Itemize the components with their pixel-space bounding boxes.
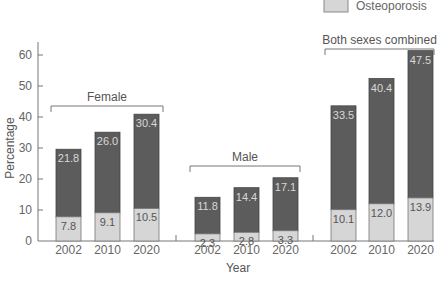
group-label: Both sexes combined	[322, 33, 437, 47]
x-tick-label: 2010	[233, 243, 260, 257]
bar-segment-dark	[369, 79, 394, 204]
x-tick-label: 2020	[272, 243, 299, 257]
bar-value-dark: 40.4	[371, 82, 392, 94]
x-tick-label: 2002	[194, 243, 221, 257]
y-tick-label: 60	[19, 48, 33, 62]
x-axis-title: Year	[226, 261, 250, 275]
bar-value-osteoporosis: 9.1	[100, 216, 115, 228]
y-tick-label: 0	[25, 234, 32, 248]
bar-segment-dark	[408, 51, 433, 198]
bar-value-dark: 47.5	[410, 54, 431, 66]
legend-swatch-osteoporosis	[324, 0, 348, 12]
x-tick-label: 2010	[94, 243, 121, 257]
y-tick-label: 20	[19, 172, 33, 186]
bar-value-osteoporosis: 7.8	[61, 220, 76, 232]
group-bracket	[51, 106, 163, 112]
bar-value-dark: 17.1	[275, 181, 296, 193]
bar-value-dark: 30.4	[136, 117, 157, 129]
x-tick-label: 2010	[368, 243, 395, 257]
y-axis-title: Percentage	[3, 117, 17, 179]
bar-value-dark: 33.5	[333, 109, 354, 121]
legend-label-osteoporosis: Osteoporosis	[356, 0, 427, 13]
y-tick-label: 50	[19, 79, 33, 93]
bar-value-dark: 26.0	[97, 135, 118, 147]
group-label: Female	[87, 90, 127, 104]
stacked-bar-chart: Osteoporosis0102030405060PercentageYearF…	[0, 0, 443, 285]
bar-value-osteoporosis: 13.9	[410, 201, 431, 213]
bar-value-dark: 14.4	[236, 191, 257, 203]
y-tick-label: 10	[19, 203, 33, 217]
x-tick-label: 2002	[55, 243, 82, 257]
bar-value-osteoporosis: 10.5	[136, 211, 157, 223]
x-tick-label: 2002	[330, 243, 357, 257]
y-tick-label: 30	[19, 141, 33, 155]
x-tick-label: 2020	[133, 243, 160, 257]
bar-value-dark: 11.8	[197, 200, 218, 212]
group-bracket	[190, 166, 300, 172]
group-label: Male	[232, 150, 258, 164]
bar-segment-dark	[331, 106, 356, 210]
x-tick-label: 2020	[407, 243, 434, 257]
bar-value-osteoporosis: 10.1	[333, 213, 354, 225]
bar-value-dark: 21.8	[58, 152, 79, 164]
bar-value-osteoporosis: 12.0	[371, 207, 392, 219]
y-tick-label: 40	[19, 110, 33, 124]
